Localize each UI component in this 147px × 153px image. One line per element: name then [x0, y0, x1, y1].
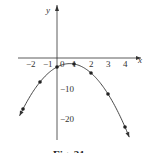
x-tick-label: 2 — [89, 59, 94, 69]
curve-arrow-left-icon — [20, 110, 24, 115]
x-axis-label: x — [137, 55, 142, 65]
x-tick-label: −1 — [43, 59, 53, 69]
curve-arrow-right-icon — [126, 132, 130, 137]
data-point — [55, 65, 59, 69]
y-axis-label: y — [45, 5, 50, 15]
parabola-chart: y x −2 −1 0 1 2 3 4 −10 −20 Fig. 31 — [0, 0, 147, 153]
data-point — [38, 80, 42, 84]
x-tick-label: 4 — [123, 59, 128, 69]
y-axis-arrow-icon — [55, 5, 59, 11]
y-tick-label: −10 — [60, 84, 75, 94]
parabola-curve — [20, 64, 130, 138]
x-tick-label: −2 — [26, 59, 36, 69]
data-point — [72, 62, 76, 66]
figure-caption: Fig. 31 — [53, 148, 85, 153]
data-point — [89, 71, 93, 75]
data-point — [106, 92, 110, 96]
data-point — [21, 107, 25, 111]
y-tick-label: −20 — [60, 114, 75, 124]
x-tick-label: 3 — [106, 59, 111, 69]
data-point — [123, 125, 127, 129]
